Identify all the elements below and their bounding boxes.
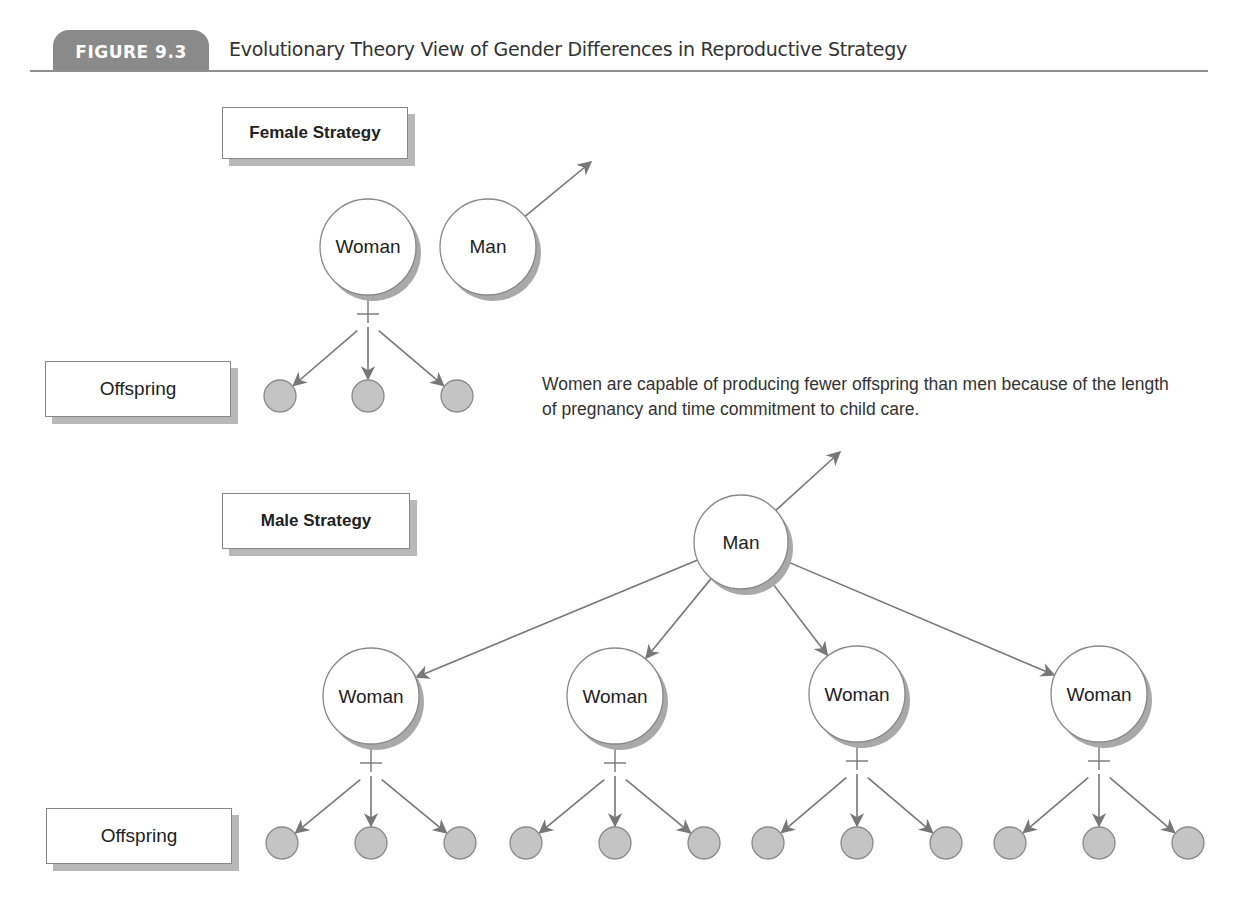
male-woman-1-offspring-3 — [444, 827, 476, 859]
female-offspring-label: Offspring — [45, 361, 231, 417]
male-man-mars-arrow — [776, 452, 840, 510]
male-woman-1-offspring-1 — [266, 827, 298, 859]
male-woman-2-offspring-2 — [599, 827, 631, 859]
male-woman-4-offspring-1 — [994, 827, 1026, 859]
male-woman-2-offspring-arrow-1 — [540, 780, 605, 833]
male-woman-1-offspring-2 — [355, 827, 387, 859]
female-man-node-label: Man — [438, 236, 538, 258]
male-woman-4-offspring-arrow-1 — [1023, 778, 1088, 833]
male-woman-node-label-4: Woman — [1049, 684, 1149, 706]
male-woman-node-label-1: Woman — [321, 686, 421, 708]
female-strategy-label: Female Strategy — [222, 107, 408, 159]
male-woman-node-label-3: Woman — [807, 684, 907, 706]
male-woman-4-offspring-arrow-3 — [1110, 778, 1175, 833]
male-strategy-label: Male Strategy — [222, 493, 410, 549]
male-woman-3-offspring-3 — [930, 827, 962, 859]
male-woman-3-offspring-2 — [841, 827, 873, 859]
male-woman-1-offspring-arrow-3 — [382, 780, 447, 833]
male-woman-2-offspring-3 — [688, 827, 720, 859]
female-woman-node-label: Woman — [318, 236, 418, 258]
female-offspring-arrow-1 — [293, 331, 357, 386]
female-offspring-2 — [352, 380, 384, 412]
man-to-woman-arrow-2 — [646, 578, 711, 658]
reproductive-strategy-diagram — [0, 0, 1242, 905]
male-woman-3-offspring-arrow-3 — [868, 778, 933, 833]
man-to-woman-arrow-1 — [416, 560, 697, 677]
male-man-node-label: Man — [691, 532, 791, 554]
male-woman-4-offspring-3 — [1172, 827, 1204, 859]
female-man-mars-arrow — [525, 162, 591, 216]
male-woman-3-offspring-1 — [752, 827, 784, 859]
male-woman-2-offspring-1 — [510, 827, 542, 859]
female-offspring-3 — [441, 380, 473, 412]
male-woman-node-label-2: Woman — [565, 686, 665, 708]
male-woman-4-offspring-2 — [1083, 827, 1115, 859]
man-to-woman-arrow-3 — [770, 579, 828, 655]
male-woman-2-offspring-arrow-3 — [626, 780, 691, 833]
male-offspring-label: Offspring — [46, 808, 232, 864]
male-woman-1-offspring-arrow-1 — [296, 780, 361, 833]
female-offspring-1 — [264, 380, 296, 412]
female-offspring-arrow-3 — [379, 331, 444, 386]
female-strategy-caption: Women are capable of producing fewer off… — [542, 372, 1182, 422]
male-woman-3-offspring-arrow-1 — [781, 778, 846, 833]
